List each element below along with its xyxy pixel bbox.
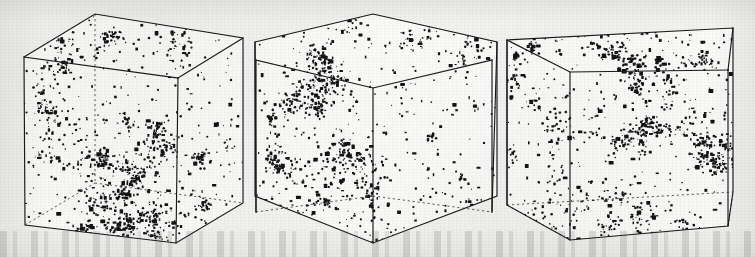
cube-panel-1 <box>0 0 252 257</box>
cube-panel-3-svg <box>501 0 755 257</box>
cube-panel-3 <box>501 0 755 257</box>
cube-panel-2-svg <box>251 0 503 257</box>
cube-3-face-fill <box>507 28 733 240</box>
caption-zone <box>0 243 755 257</box>
cube-panel-2 <box>251 0 503 257</box>
cube-panel-1-svg <box>0 0 252 257</box>
cube-2-face-fill <box>255 14 497 243</box>
figure-three-cube-point-distribution <box>0 0 755 257</box>
